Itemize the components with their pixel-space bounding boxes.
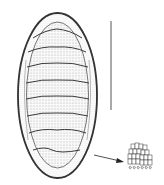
chiton-body xyxy=(18,13,97,178)
chiton-figure xyxy=(0,0,164,185)
pointer-arrow xyxy=(94,155,124,163)
girdle-scales-detail xyxy=(128,143,152,169)
